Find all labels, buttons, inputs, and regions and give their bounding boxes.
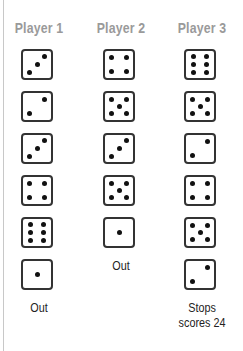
- pip-dot: [42, 97, 47, 102]
- pip-dot: [190, 153, 195, 158]
- die-face-4: [21, 175, 53, 206]
- pip-dot: [124, 181, 129, 186]
- outcome-line: Stops: [166, 301, 238, 316]
- outcome-caption: Out: [3, 301, 75, 316]
- die-face-3: [21, 133, 53, 164]
- die-face-5: [103, 91, 135, 122]
- die-face-1: [21, 259, 53, 290]
- die-face-2: [184, 259, 216, 290]
- pip-dot: [190, 237, 195, 242]
- outcome-caption: Out: [85, 259, 157, 274]
- pip-dot: [117, 104, 122, 109]
- pip-dot: [190, 111, 195, 116]
- pip-dot: [124, 69, 129, 74]
- pip-dot: [35, 62, 40, 67]
- pip-dot: [124, 97, 129, 102]
- outcome-line: scores 24: [166, 316, 238, 331]
- outcome-line: Out: [85, 259, 157, 274]
- pip-dot: [198, 104, 203, 109]
- pip-dot: [109, 111, 114, 116]
- pip-dot: [204, 70, 209, 75]
- pip-dot: [27, 111, 32, 116]
- die-face-6: [184, 49, 216, 80]
- pip-dot: [27, 154, 32, 159]
- die-face-2: [21, 91, 53, 122]
- pip-dot: [205, 139, 210, 144]
- pip-dot: [27, 195, 32, 200]
- pip-dot: [28, 230, 33, 235]
- die-face-3: [103, 133, 135, 164]
- pip-dot: [117, 188, 122, 193]
- pip-dot: [124, 138, 129, 143]
- die-face-4: [103, 49, 135, 80]
- die-face-5: [184, 217, 216, 248]
- die-face-1: [103, 217, 135, 248]
- pip-dot: [27, 181, 32, 186]
- pip-dot: [42, 54, 47, 59]
- pip-dot: [205, 111, 210, 116]
- pip-dot: [191, 70, 196, 75]
- pip-dot: [109, 154, 114, 159]
- pip-dot: [109, 195, 114, 200]
- die-face-3: [21, 49, 53, 80]
- player-header: Player 1: [4, 20, 74, 36]
- pip-dot: [124, 111, 129, 116]
- die-face-5: [184, 91, 216, 122]
- pip-dot: [41, 222, 46, 227]
- pip-dot: [205, 97, 210, 102]
- pip-dot: [204, 54, 209, 59]
- pip-dot: [190, 279, 195, 284]
- pip-dot: [117, 230, 122, 235]
- pip-dot: [28, 222, 33, 227]
- pip-dot: [205, 195, 210, 200]
- pip-dot: [124, 55, 129, 60]
- left-border: [3, 0, 4, 351]
- pip-dot: [124, 195, 129, 200]
- pip-dot: [35, 272, 40, 277]
- pip-dot: [190, 195, 195, 200]
- pip-dot: [42, 138, 47, 143]
- pip-dot: [41, 238, 46, 243]
- pip-dot: [27, 70, 32, 75]
- pip-dot: [35, 146, 40, 151]
- pip-dot: [28, 238, 33, 243]
- pip-dot: [41, 230, 46, 235]
- pip-dot: [205, 181, 210, 186]
- die-face-2: [184, 133, 216, 164]
- pip-dot: [109, 69, 114, 74]
- pip-dot: [205, 265, 210, 270]
- pip-dot: [42, 195, 47, 200]
- outcome-line: Out: [3, 301, 75, 316]
- outcome-caption: Stopsscores 24: [166, 301, 238, 331]
- pip-dot: [109, 181, 114, 186]
- player-header: Player 2: [86, 20, 156, 36]
- pip-dot: [42, 181, 47, 186]
- pip-dot: [117, 146, 122, 151]
- pip-dot: [191, 62, 196, 67]
- die-face-4: [184, 175, 216, 206]
- pip-dot: [191, 54, 196, 59]
- pip-dot: [204, 62, 209, 67]
- die-face-6: [21, 217, 53, 248]
- pip-dot: [190, 97, 195, 102]
- pip-dot: [190, 181, 195, 186]
- pip-dot: [109, 97, 114, 102]
- pip-dot: [198, 230, 203, 235]
- die-face-5: [103, 175, 135, 206]
- pip-dot: [190, 223, 195, 228]
- pip-dot: [205, 223, 210, 228]
- player-header: Player 3: [167, 20, 237, 36]
- pip-dot: [109, 55, 114, 60]
- pip-dot: [205, 237, 210, 242]
